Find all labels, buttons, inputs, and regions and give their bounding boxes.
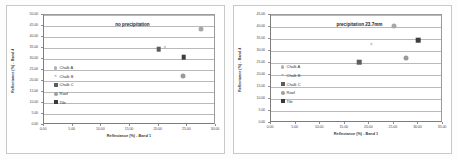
marker-square-dark [182,55,187,60]
legend-item-tile[interactable]: Tile [53,98,73,107]
legend-circle-icon [53,91,58,96]
gridline-horizontal [44,48,214,49]
x-tick-mark [270,122,271,124]
x-tick-mark [319,122,320,124]
legend-symbol-glyph [281,65,285,69]
legend-item-label: Chalk B [60,74,74,79]
x-tick-label: 5.00 [68,127,75,131]
figure-container: × no precipitation Reflectance (%) - Ban… [0,0,458,159]
y-tick-mark [268,110,270,111]
marker-circle [403,56,408,61]
legend-square-dark-icon [280,99,285,104]
legend-symbol-glyph [281,91,285,95]
y-tick-label: 15.00 [257,84,266,88]
legend-item-label: Roof [287,90,295,95]
x-tick-mark [295,122,296,124]
legend-dot-icon [280,64,285,69]
marker-square [156,47,161,52]
x-axis-title-right: Reflectance (%) - Band 1 [270,132,442,136]
y-tick-label: 40.00 [30,34,39,38]
x-axis-title-left: Reflectance (%) - Band 1 [43,134,215,138]
legend-item-chalk-b[interactable]: ×Chalk B [53,72,73,81]
legend-item-chalk-a[interactable]: Chalk A [53,64,73,73]
x-tick-label: 20.00 [364,125,373,129]
y-tick-mark [41,36,43,37]
y-tick-label: 25.00 [257,60,266,64]
chart-panel-left: × no precipitation Reflectance (%) - Ban… [6,5,225,154]
marker-cross: × [369,43,373,47]
y-tick-mark [41,58,43,59]
legend-item-roof[interactable]: Roof [280,88,300,97]
y-tick-label: 15.00 [30,89,39,93]
legend-item-chalk-c[interactable]: Chalk C [53,81,73,90]
gridline-horizontal [44,37,214,38]
y-axis-title-right: Reflectance (%) - Band 4 [238,48,242,92]
gridline-horizontal [44,15,214,16]
legend-symbol-glyph [281,82,285,86]
legend-item-label: Chalk B [287,73,301,78]
y-tick-mark [41,113,43,114]
marker-circle [180,73,185,78]
legend-cross-icon: × [280,73,285,78]
chart-title-right: precipitation 23.7mm [336,22,382,27]
gridline-horizontal [44,59,214,60]
x-tick-mark [129,124,130,126]
legend-square-dark-icon [53,100,58,105]
y-tick-label: 10.00 [257,96,266,100]
y-tick-mark [41,102,43,103]
legend-symbol-glyph [54,100,58,104]
legend-item-chalk-b[interactable]: ×Chalk B [280,71,300,80]
x-tick-label: 10.00 [315,125,324,129]
x-tick-label: 35.00 [438,125,447,129]
legend-item-roof[interactable]: Roof [53,89,73,98]
y-tick-mark [268,98,270,99]
y-tick-mark [268,26,270,27]
y-tick-mark [41,25,43,26]
legend-item-label: Tile [60,100,66,105]
x-tick-mark [344,122,345,124]
legend-item-tile[interactable]: Tile [280,97,300,106]
legend-item-chalk-a[interactable]: Chalk A [280,63,300,72]
y-tick-label: 5.00 [258,108,265,112]
x-tick-label: 0.00 [267,125,274,129]
legend-symbol-glyph: × [54,74,56,78]
x-tick-mark [393,122,394,124]
y-tick-label: 35.00 [257,36,266,40]
x-tick-label: 10.00 [96,127,105,131]
legend-item-label: Chalk C [287,82,301,87]
x-tick-label: 15.00 [125,127,134,131]
y-tick-label: 40.00 [257,24,266,28]
gridline-horizontal [44,114,214,115]
legend-symbol-glyph [54,66,58,70]
gridline-horizontal [271,51,441,52]
y-tick-mark [268,38,270,39]
marker-dot [198,27,203,32]
legend-item-label: Chalk A [287,64,300,69]
x-tick-mark [186,124,187,126]
gridline-horizontal [271,111,441,112]
legend-item-chalk-c[interactable]: Chalk C [280,80,300,89]
legend-item-label: Chalk A [60,65,73,70]
legend-item-label: Chalk C [60,82,74,87]
marker-square [357,60,362,65]
gridline-horizontal [271,27,441,28]
y-tick-mark [41,91,43,92]
x-tick-mark [215,124,216,126]
x-tick-label: 25.00 [389,125,398,129]
legend-item-label: Roof [60,91,68,96]
marker-cross: × [163,46,167,50]
legend-dot-icon [53,65,58,70]
legend-right: Chalk A×Chalk BChalk CRoofTile [280,63,300,106]
x-tick-mark [417,122,418,124]
marker-dot [391,24,396,29]
y-tick-label: 10.00 [30,100,39,104]
y-axis-title-left: Reflectance (%) - Band 4 [11,49,15,93]
x-tick-label: 5.00 [291,125,298,129]
chart-title-left: no precipitation [115,22,149,27]
y-tick-mark [41,69,43,70]
y-tick-label: 30.00 [30,56,39,60]
y-tick-label: 45.00 [257,12,266,16]
x-tick-label: 20.00 [153,127,162,131]
y-tick-mark [268,74,270,75]
x-tick-label: 30.00 [413,125,422,129]
